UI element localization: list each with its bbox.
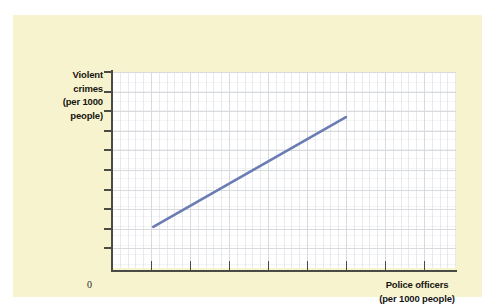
gridline-vertical xyxy=(385,72,386,268)
gridline-vertical xyxy=(190,72,191,268)
y-axis-tick xyxy=(104,169,113,171)
gridline-horizontal xyxy=(112,72,456,73)
x-axis-tick xyxy=(385,261,386,271)
x-axis-line xyxy=(111,270,457,272)
y-axis-label-line: (per 1000 xyxy=(37,95,103,109)
page-canvas: Violent crimes (per 1000 people) Police … xyxy=(0,0,495,308)
plot-area xyxy=(112,72,456,268)
x-axis-label-line: (per 1000 people) xyxy=(343,292,491,306)
gridline-vertical xyxy=(229,72,230,268)
x-axis-tick xyxy=(268,261,269,271)
gridline-horizontal xyxy=(112,229,456,230)
y-axis-tick xyxy=(104,130,113,132)
y-axis-tick xyxy=(104,228,113,230)
x-axis-label: Police officers (per 1000 people) xyxy=(343,278,491,306)
gridline-horizontal xyxy=(112,131,456,132)
x-axis-tick xyxy=(190,261,191,271)
y-axis-tick xyxy=(104,91,113,93)
gridline-horizontal xyxy=(112,150,456,151)
gridline-vertical xyxy=(307,72,308,268)
gridline-vertical xyxy=(424,72,425,268)
y-axis-tick xyxy=(104,71,113,73)
x-axis-tick xyxy=(346,261,347,271)
y-axis-tick xyxy=(104,149,113,151)
y-axis-label-line: Violent xyxy=(37,68,103,82)
y-axis-tick xyxy=(104,247,113,249)
y-axis-label-line: people) xyxy=(37,109,103,123)
gridline-horizontal xyxy=(112,248,456,249)
x-axis-tick xyxy=(229,261,230,271)
x-axis-label-line: Police officers xyxy=(343,278,491,292)
gridline-horizontal xyxy=(112,111,456,112)
x-axis-tick xyxy=(424,261,425,271)
y-axis-label-line: crimes xyxy=(37,82,103,96)
gridline-vertical xyxy=(151,72,152,268)
gridline-horizontal xyxy=(112,190,456,191)
gridline-horizontal xyxy=(112,170,456,171)
x-axis-tick xyxy=(151,261,152,271)
origin-label: 0 xyxy=(87,279,92,290)
figure-panel: Violent crimes (per 1000 people) Police … xyxy=(13,15,482,297)
gridline-horizontal xyxy=(112,92,456,93)
y-axis-tick xyxy=(104,110,113,112)
gridline-vertical xyxy=(346,72,347,268)
y-axis-label: Violent crimes (per 1000 people) xyxy=(37,68,103,122)
y-axis-tick xyxy=(104,208,113,210)
x-axis-tick xyxy=(307,261,308,271)
gridline-vertical xyxy=(268,72,269,268)
y-axis-tick xyxy=(104,189,113,191)
gridline-horizontal xyxy=(112,209,456,210)
